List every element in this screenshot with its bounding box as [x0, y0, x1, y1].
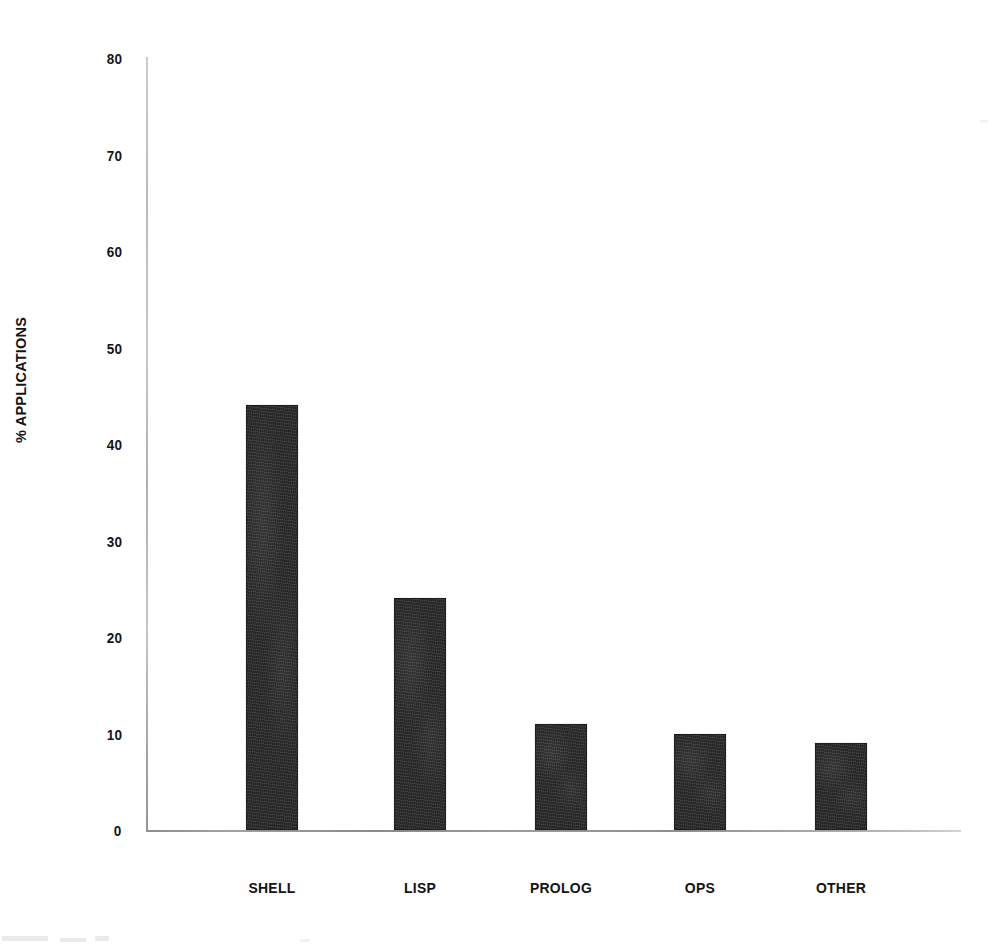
y-axis-tick-label: 10: [106, 726, 122, 743]
x-axis-category-label: OPS: [635, 879, 765, 896]
scan-artifact: [300, 939, 310, 942]
y-axis-tick-label: 70: [106, 147, 122, 164]
y-axis-tick-label: 30: [106, 533, 122, 550]
x-axis-line: [147, 830, 961, 832]
y-axis-title: % APPLICATIONS: [14, 317, 29, 443]
y-axis-tick-label: 60: [106, 243, 122, 260]
bar: [394, 598, 446, 830]
y-axis-tick-label: 20: [106, 629, 122, 646]
scan-artifact: [60, 938, 86, 942]
bar: [535, 724, 587, 830]
x-axis-category-label: SHELL: [207, 879, 337, 896]
y-axis-tick-label: 50: [106, 340, 122, 357]
x-axis-category-label: PROLOG: [496, 879, 626, 896]
y-axis-tick-label: 40: [106, 436, 122, 453]
scan-artifact: [2, 936, 48, 941]
y-axis-tick-label: 0: [114, 822, 122, 839]
bar-chart-figure: % APPLICATIONS 80706050403020100 SHELLLI…: [0, 0, 1004, 952]
y-axis-tick-label: 80: [106, 50, 122, 67]
bar: [246, 405, 298, 830]
bar: [674, 734, 726, 831]
x-axis-category-label: OTHER: [776, 879, 906, 896]
scan-artifact: [95, 936, 109, 941]
x-axis-category-label: LISP: [355, 879, 485, 896]
y-axis-line: [146, 57, 148, 832]
bar: [815, 743, 867, 830]
scan-artifact: [980, 120, 988, 123]
